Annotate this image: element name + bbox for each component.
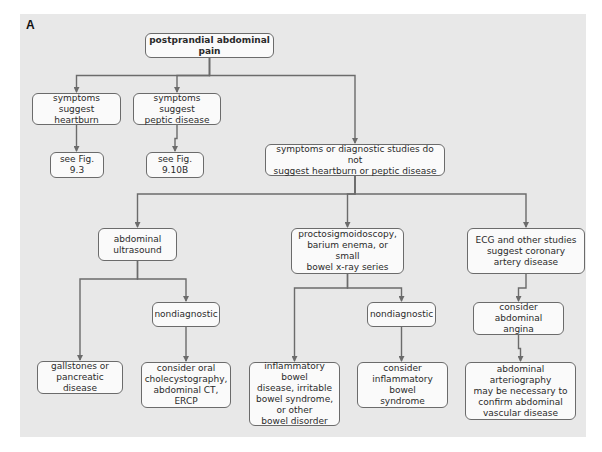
connector-abdominal_ultrasound-to-gallstones — [80, 261, 138, 360]
node-nondiagnostic-2: nondiagnostic — [367, 302, 436, 327]
node-abdominal-ultrasound: abdominal ultrasound — [98, 228, 177, 261]
node-oral-chole: consider oral cholecystography, abdomina… — [141, 362, 231, 408]
node-proctosigmoidoscopy: proctosigmoidoscopy, barium enema, or sm… — [291, 228, 404, 274]
node-peptic: symptoms suggest peptic disease — [133, 93, 221, 125]
connector-root-to-peptic — [177, 58, 210, 92]
node-ibd-disorders: inflammatory bowel disease, irritable bo… — [249, 362, 340, 426]
connector-proctosigmoidoscopy-to-nondiagnostic_2 — [348, 274, 402, 301]
node-arteriography: abdominal arteriography may be necessary… — [465, 362, 576, 420]
connector-not_suggest-to-ecg — [355, 176, 526, 227]
node-consider-ibd: consider inflammatory bowel syndrome — [357, 362, 448, 408]
connector-peptic-to-see_fig_9_10b — [175, 125, 177, 151]
connector-root-to-not_suggest — [210, 58, 356, 143]
connector-ecg-to-consider_angina — [519, 274, 527, 301]
node-not-suggest: symptoms or diagnostic studies do not su… — [265, 144, 445, 176]
node-consider-angina: consider abdominal angina — [473, 302, 564, 335]
node-ecg: ECG and other studies suggest coronary a… — [467, 228, 585, 274]
node-see-fig-9-10b: see Fig. 9.10B — [146, 152, 204, 178]
node-nondiagnostic-1: nondiagnostic — [152, 302, 220, 327]
node-root: postprandial abdominal pain — [145, 33, 274, 58]
connector-proctosigmoidoscopy-to-ibd_disorders — [295, 274, 348, 361]
node-heartburn: symptoms suggest heartburn — [32, 93, 121, 125]
connector-not_suggest-to-abdominal_ultrasound — [138, 176, 356, 227]
node-see-fig-9-3: see Fig. 9.3 — [50, 152, 104, 178]
connector-consider_angina-to-arteriography — [519, 335, 521, 361]
node-gallstones: gallstones or pancreatic disease — [37, 361, 123, 394]
connector-not_suggest-to-proctosigmoidoscopy — [348, 176, 356, 227]
connector-abdominal_ultrasound-to-nondiagnostic_1 — [138, 261, 187, 301]
